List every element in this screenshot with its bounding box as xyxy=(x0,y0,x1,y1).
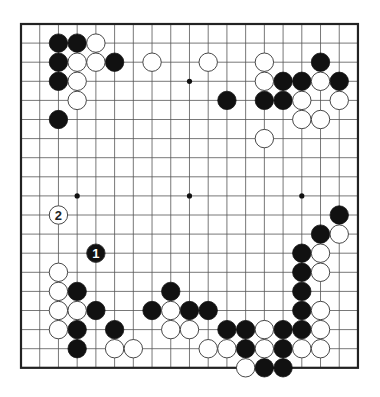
black-stone xyxy=(105,320,123,338)
white-stone xyxy=(330,91,348,109)
white-stone xyxy=(87,34,105,52)
white-stone xyxy=(311,244,329,262)
black-stone xyxy=(293,320,311,338)
white-stone xyxy=(255,72,273,90)
white-stone xyxy=(180,320,198,338)
black-stone xyxy=(274,72,292,90)
black-stone xyxy=(49,72,67,90)
white-stone xyxy=(255,53,273,71)
white-stone xyxy=(293,91,311,109)
white-stone xyxy=(105,340,123,358)
black-stone xyxy=(293,282,311,300)
star-point xyxy=(299,193,304,198)
white-stone xyxy=(293,340,311,358)
white-stone xyxy=(199,340,217,358)
white-stone xyxy=(236,359,254,377)
black-stone xyxy=(68,34,86,52)
white-stone xyxy=(199,53,217,71)
star-point xyxy=(187,79,192,84)
black-stone xyxy=(330,72,348,90)
white-stone xyxy=(255,340,273,358)
white-stone xyxy=(49,263,67,281)
stones xyxy=(49,34,348,377)
white-stone xyxy=(218,340,236,358)
move-number: 2 xyxy=(55,208,62,223)
black-stone xyxy=(330,206,348,224)
white-stone xyxy=(87,53,105,71)
black-stone xyxy=(87,301,105,319)
black-stone xyxy=(311,225,329,243)
black-stone xyxy=(255,359,273,377)
black-stone xyxy=(49,34,67,52)
white-stone xyxy=(311,340,329,358)
white-stone xyxy=(293,110,311,128)
black-stone xyxy=(293,244,311,262)
black-stone xyxy=(293,263,311,281)
white-stone xyxy=(311,110,329,128)
white-stone xyxy=(68,53,86,71)
white-stone xyxy=(68,91,86,109)
white-stone xyxy=(311,301,329,319)
black-stone xyxy=(236,340,254,358)
black-stone xyxy=(180,301,198,319)
black-stone xyxy=(143,301,161,319)
white-stone xyxy=(255,129,273,147)
white-stone xyxy=(68,301,86,319)
white-stone xyxy=(49,320,67,338)
white-stone xyxy=(49,282,67,300)
black-stone xyxy=(236,320,254,338)
white-stone xyxy=(68,72,86,90)
go-board: 12 xyxy=(0,0,380,397)
black-stone xyxy=(218,320,236,338)
white-stone xyxy=(255,320,273,338)
black-stone xyxy=(68,320,86,338)
white-stone xyxy=(311,72,329,90)
black-stone xyxy=(49,53,67,71)
black-stone xyxy=(293,72,311,90)
star-point xyxy=(75,193,80,198)
black-stone xyxy=(274,91,292,109)
white-stone xyxy=(162,301,180,319)
black-stone xyxy=(274,359,292,377)
white-stone xyxy=(162,320,180,338)
white-stone xyxy=(311,320,329,338)
black-stone xyxy=(68,282,86,300)
white-stone xyxy=(311,263,329,281)
white-stone xyxy=(143,53,161,71)
black-stone xyxy=(274,340,292,358)
black-stone xyxy=(274,320,292,338)
black-stone xyxy=(293,301,311,319)
black-stone xyxy=(218,91,236,109)
white-stone xyxy=(49,301,67,319)
black-stone xyxy=(199,301,217,319)
black-stone xyxy=(255,91,273,109)
black-stone xyxy=(162,282,180,300)
white-stone xyxy=(124,340,142,358)
black-stone xyxy=(68,340,86,358)
move-number: 1 xyxy=(92,246,99,261)
black-stone xyxy=(311,53,329,71)
star-point xyxy=(187,193,192,198)
white-stone xyxy=(330,225,348,243)
black-stone xyxy=(49,110,67,128)
black-stone xyxy=(105,53,123,71)
